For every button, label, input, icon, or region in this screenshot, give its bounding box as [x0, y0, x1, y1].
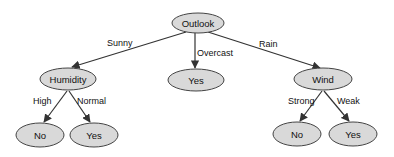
edge-label-high: High	[33, 96, 52, 106]
node-normal-yes: Yes	[70, 123, 118, 147]
node-label-strong-no: No	[291, 129, 303, 140]
edge-label-weak: Weak	[337, 96, 360, 106]
node-label-normal-yes: Yes	[86, 130, 102, 141]
edge-label-normal: Normal	[77, 96, 106, 106]
node-label-wind: Wind	[312, 74, 334, 85]
edge-label-sunny: Sunny	[107, 38, 133, 48]
node-label-high-no: No	[34, 130, 46, 141]
node-label-weak-yes: Yes	[345, 129, 361, 140]
decision-tree-diagram: Sunny Overcast Rain High Normal Strong W…	[0, 0, 394, 157]
node-label-overcast-yes: Yes	[188, 75, 204, 86]
node-strong-no: No	[273, 122, 321, 146]
node-label-humidity: Humidity	[50, 74, 87, 85]
node-wind: Wind	[294, 68, 352, 90]
node-humidity: Humidity	[40, 68, 96, 90]
edge-label-overcast: Overcast	[197, 48, 234, 58]
node-overcast-yes: Yes	[168, 69, 224, 91]
edge-label-rain: Rain	[259, 39, 278, 49]
node-weak-yes: Yes	[329, 122, 377, 146]
node-label-outlook: Outlook	[182, 18, 215, 29]
node-outlook: Outlook	[172, 13, 224, 33]
node-high-no: No	[16, 123, 64, 147]
edge-label-strong: Strong	[288, 96, 315, 106]
